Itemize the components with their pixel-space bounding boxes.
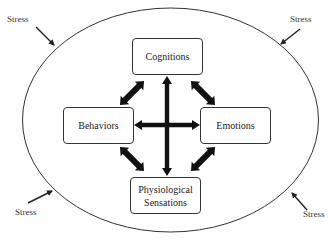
stress-arrow-top-right (281, 29, 300, 44)
node-label-line2: Sensations (144, 196, 187, 209)
node-label: Behaviors (78, 119, 119, 132)
stress-label-top-left: Stress (7, 14, 29, 24)
arrow-behaviors-physiological (116, 143, 149, 176)
node-label-line1: Physiological (138, 183, 192, 196)
node-label: Cognitions (146, 50, 190, 63)
stress-arrow-bottom-left (28, 191, 52, 203)
stress-arrow-top-left (36, 27, 54, 45)
node-emotions: Emotions (200, 107, 271, 144)
node-cognitions: Cognitions (132, 38, 203, 75)
stress-label-bottom-left: Stress (15, 207, 37, 217)
arrow-cognitions-emotions (187, 77, 220, 110)
stress-label-top-right: Stress (290, 14, 312, 24)
arrow-cognitions-behaviors (116, 77, 149, 110)
node-behaviors: Behaviors (63, 107, 134, 144)
stress-label-bottom-right: Stress (303, 209, 325, 219)
arrow-emotions-physiological (187, 143, 220, 176)
node-label: Emotions (216, 119, 254, 132)
stress-arrow-bottom-right (292, 193, 307, 210)
node-physiological-sensations: Physiological Sensations (130, 177, 201, 214)
